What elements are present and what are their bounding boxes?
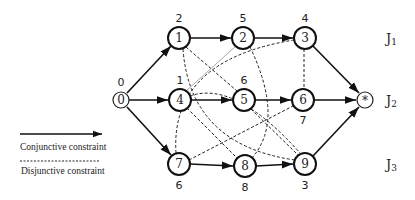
node-weight: 6 (176, 179, 183, 192)
node-7: 7 6 (168, 153, 190, 192)
node-weight: 3 (302, 179, 309, 192)
svg-text:5: 5 (240, 93, 248, 107)
disjunctive-graph: 0 0 1 2 2 5 3 4 4 1 5 6 6 (0, 0, 415, 200)
node-1: 1 2 (168, 12, 190, 49)
nodes: 0 0 1 2 2 5 3 4 4 1 5 6 6 (113, 12, 373, 194)
node-weight: 5 (240, 12, 247, 25)
node-6: 6 7 (292, 89, 314, 127)
conjunctive-edge-8-9 (256, 164, 293, 166)
node-2: 2 5 (232, 12, 254, 49)
node-weight: 4 (302, 12, 309, 25)
svg-text:8: 8 (241, 159, 249, 173)
legend-conjunctive-label: Conjunctive constraint (20, 142, 107, 152)
svg-text:2: 2 (239, 31, 247, 45)
node-weight: 8 (242, 181, 249, 194)
svg-text:*: * (362, 94, 368, 108)
disjunctive-edge-4-8 (187, 108, 237, 158)
conjunctive-edge-9-end (313, 107, 359, 156)
node-weight: 1 (177, 74, 184, 87)
svg-text:3: 3 (301, 31, 309, 45)
conjunctive-edge-7-8 (190, 164, 233, 166)
svg-text:4: 4 (176, 93, 184, 107)
job-label-3: J3 (384, 157, 397, 173)
svg-text:7: 7 (175, 157, 183, 171)
svg-text:6: 6 (299, 93, 307, 107)
svg-text:0: 0 (117, 93, 125, 107)
legend-disjunctive-label: Disjunctive constraint (21, 166, 105, 176)
node-weight: 6 (241, 74, 248, 87)
node-sink: * (357, 92, 373, 108)
conjunctive-edge-3-end (313, 46, 359, 93)
node-weight: 0 (118, 76, 125, 89)
conjunctive-edge-0-7 (127, 107, 171, 155)
node-weight: 7 (300, 114, 307, 127)
node-9: 9 3 (294, 153, 316, 192)
legend: Conjunctive constraint Disjunctive const… (20, 134, 107, 176)
node-weight: 2 (176, 12, 183, 25)
disjunctive-edge-7-6 (189, 106, 293, 160)
node-3: 3 4 (294, 12, 316, 49)
node-8: 8 8 (234, 155, 256, 194)
svg-text:9: 9 (301, 157, 309, 171)
node-5: 5 6 (233, 74, 255, 111)
conjunctive-edge-0-1 (127, 46, 171, 93)
node-0: 0 0 (113, 76, 129, 108)
node-4: 4 1 (169, 74, 191, 111)
job-label-2: J2 (384, 93, 397, 109)
job-labels: J1 J2 J3 (384, 31, 397, 173)
job-label-1: J1 (384, 31, 397, 47)
svg-text:1: 1 (175, 31, 183, 45)
